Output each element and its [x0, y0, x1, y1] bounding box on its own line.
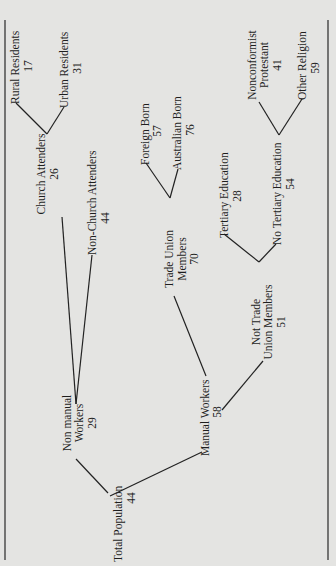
svg-text:57: 57	[151, 125, 163, 137]
node-nonchurch-attenders: Non-Church Attenders 44	[86, 150, 111, 255]
node-nonmanual-workers: Non manual Workers 29	[61, 395, 98, 452]
svg-text:Rural Residents: Rural Residents	[9, 30, 21, 104]
svg-text:44: 44	[125, 492, 137, 504]
node-manual-workers: Manual Workers 58	[199, 379, 223, 456]
node-total-population: Total Population 44	[112, 486, 137, 562]
svg-text:54: 54	[284, 178, 296, 190]
node-no-tertiary-education: No Tertiary Education 54	[271, 142, 296, 245]
node-rural-residents: Rural Residents 17	[9, 30, 34, 104]
connector-lines	[16, 99, 302, 496]
node-tertiary-education: Tertiary Education 28	[218, 152, 243, 238]
svg-text:Other Religion: Other Religion	[296, 31, 309, 100]
svg-text:58: 58	[211, 406, 223, 418]
svg-text:No Tertiary Education: No Tertiary Education	[271, 142, 284, 245]
node-australian-born: Australian Born 76	[171, 96, 196, 170]
svg-text:51: 51	[275, 316, 287, 328]
svg-text:Australian Born: Australian Born	[171, 96, 183, 170]
svg-text:31: 31	[71, 62, 83, 74]
svg-text:Workers: Workers	[73, 403, 85, 442]
svg-text:Not Trade: Not Trade	[250, 299, 262, 345]
node-trade-union-members: Trade Union Members 70	[163, 230, 200, 288]
node-nonconformist-protestant: Nonconformist Protestant 41	[246, 29, 283, 99]
svg-text:26: 26	[48, 168, 60, 180]
node-urban-residents: Urban Residents 31	[58, 31, 83, 108]
svg-text:Non manual: Non manual	[61, 395, 73, 452]
svg-text:Urban Residents: Urban Residents	[58, 31, 70, 108]
svg-text:59: 59	[309, 62, 321, 74]
node-not-trade-union-members: Not Trade Union Members 51	[250, 284, 287, 360]
tree-diagram: Total Population 44 Non manual Workers 2…	[0, 0, 336, 566]
svg-text:Manual Workers: Manual Workers	[199, 379, 211, 456]
svg-text:76: 76	[184, 124, 196, 136]
svg-text:Nonconformist: Nonconformist	[246, 29, 258, 99]
svg-text:Protestant: Protestant	[258, 41, 270, 88]
svg-text:41: 41	[271, 59, 283, 71]
svg-text:28: 28	[231, 190, 243, 202]
svg-text:Church Attenders: Church Attenders	[35, 133, 47, 214]
svg-text:Total Population: Total Population	[112, 486, 125, 562]
svg-text:70: 70	[188, 253, 200, 265]
svg-text:Union Members: Union Members	[262, 284, 274, 360]
svg-text:17: 17	[22, 60, 34, 72]
svg-text:29: 29	[86, 417, 98, 429]
svg-text:Non-Church Attenders: Non-Church Attenders	[86, 150, 98, 255]
svg-text:Members: Members	[176, 237, 188, 281]
svg-text:Tertiary Education: Tertiary Education	[218, 152, 231, 238]
svg-text:44: 44	[99, 212, 111, 224]
node-church-attenders: Church Attenders 26	[35, 133, 60, 214]
node-foreign-born: Foreign Born 57	[139, 103, 163, 165]
node-other-religion: Other Religion 59	[296, 31, 321, 100]
svg-text:Trade Union: Trade Union	[163, 230, 175, 288]
